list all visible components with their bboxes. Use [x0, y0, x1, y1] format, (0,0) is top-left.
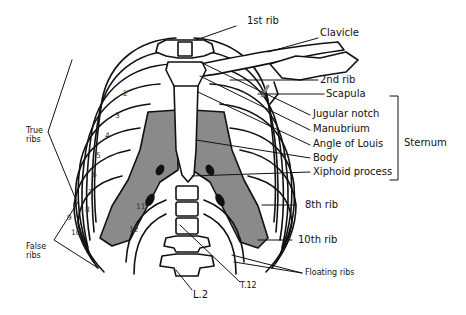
rib-cage-illustration	[0, 0, 466, 315]
rib-number-7: 7	[88, 189, 93, 197]
label-jugular-notch: Jugular notch	[313, 109, 379, 119]
rib-number-6: 6	[92, 171, 97, 179]
rib-number-2: 2	[123, 90, 128, 98]
rib-number-11: 11	[136, 203, 146, 211]
thoracic-cage-diagram: 1st rib Clavicle 2nd rib Scapula Jugular…	[0, 0, 466, 315]
rib-number-5: 5	[96, 152, 101, 160]
label-clavicle: Clavicle	[320, 28, 359, 38]
label-l2: L.2	[193, 290, 208, 300]
label-true-ribs-line1: True	[26, 127, 43, 135]
label-false-ribs-line1: False	[26, 243, 46, 251]
label-first-rib: 1st rib	[247, 16, 279, 26]
rib-number-10: 10	[71, 229, 81, 237]
label-sternum: Sternum	[404, 138, 447, 148]
rib-number-9: 9	[67, 214, 72, 222]
rib-number-4: 4	[105, 132, 110, 140]
label-angle-of-louis: Angle of Louis	[313, 139, 383, 149]
label-floating-ribs: Floating ribs	[305, 269, 354, 277]
label-manubrium: Manubrium	[313, 124, 370, 134]
label-scapula: Scapula	[326, 89, 366, 99]
rib-number-8: 8	[85, 206, 90, 214]
label-tenth-rib: 10th rib	[298, 235, 337, 245]
rib-number-3: 3	[115, 112, 120, 120]
rib-number-12: 12	[129, 226, 139, 234]
label-false-ribs-line2: ribs	[26, 252, 41, 260]
label-second-rib: 2nd rib	[320, 75, 355, 85]
label-body: Body	[313, 153, 338, 163]
label-true-ribs-line2: ribs	[26, 136, 41, 144]
label-t12: T.12	[240, 282, 257, 290]
label-xiphoid-process: Xiphoid process	[313, 167, 392, 177]
costal-cartilage-left	[100, 110, 178, 246]
label-eighth-rib: 8th rib	[305, 200, 338, 210]
